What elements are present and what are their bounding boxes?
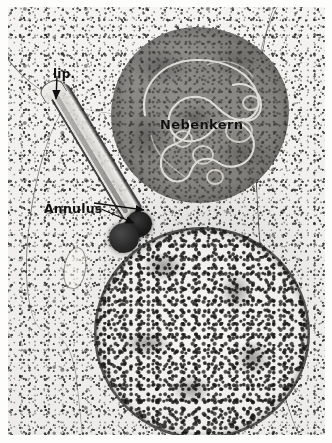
- plasma-membrane-bottom-left: [32, 335, 85, 435]
- label-annulus: Annulus: [44, 201, 102, 216]
- label-nebenkern: Nebenkern: [160, 117, 243, 132]
- nebenkern-membrane-whorls: [111, 27, 289, 203]
- label-lip: lip.: [53, 67, 75, 81]
- micrograph-field: lip. Annulus Nebenkern: [8, 7, 325, 435]
- chromatin-clumps: [96, 229, 308, 435]
- micrograph-plate: lip. Annulus Nebenkern: [0, 0, 332, 443]
- nucleus-body: [96, 229, 308, 435]
- nebenkern-body: [111, 27, 289, 203]
- cytoplasmic-vesicle: [61, 246, 89, 291]
- annulus-dense-body-lower: [109, 223, 139, 253]
